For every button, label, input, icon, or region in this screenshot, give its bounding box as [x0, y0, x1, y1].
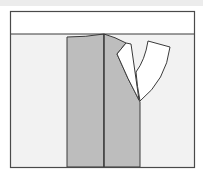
frame-upper-area: [10, 11, 194, 34]
pattern-diagram: [0, 0, 203, 176]
left-panel: [67, 34, 104, 167]
